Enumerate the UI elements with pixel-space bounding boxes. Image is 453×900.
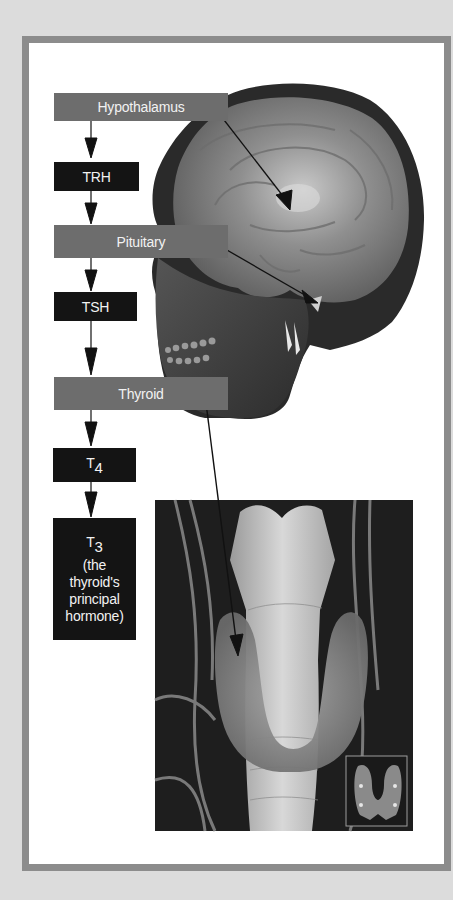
- arrow-down-icon: [85, 321, 97, 375]
- arrow-down-icon: [85, 482, 97, 517]
- thyroid-photo: [155, 500, 413, 831]
- pituitary-box: Pituitary: [54, 225, 228, 258]
- arrow-down-icon: [85, 191, 97, 224]
- arrow-down-icon: [85, 121, 97, 158]
- thyroid-label: Thyroid: [118, 386, 163, 402]
- hypothalamus-box: Hypothalamus: [54, 93, 228, 121]
- tsh-box: TSH: [54, 292, 137, 321]
- arrow-down-icon: [85, 410, 97, 446]
- t3-caption-line: thyroid's: [70, 574, 120, 591]
- trh-box: TRH: [54, 162, 139, 191]
- thyroid-box: Thyroid: [54, 377, 228, 410]
- t4-box: T4: [53, 448, 136, 482]
- t3-caption-line: (the: [83, 557, 106, 574]
- t3-caption-line: hormone): [65, 608, 123, 625]
- hypothalamus-label: Hypothalamus: [97, 99, 184, 115]
- t3-box: T3 (the thyroid's principal hormone): [53, 518, 136, 640]
- pituitary-label: Pituitary: [117, 234, 166, 250]
- arrow-down-icon: [85, 258, 97, 291]
- tsh-label: TSH: [82, 299, 109, 315]
- t3-caption-line: principal: [69, 591, 119, 608]
- t3-label: T3: [86, 534, 103, 555]
- trh-label: TRH: [82, 169, 110, 185]
- t4-label: T4: [86, 455, 103, 476]
- thyroid-inset: [346, 756, 407, 826]
